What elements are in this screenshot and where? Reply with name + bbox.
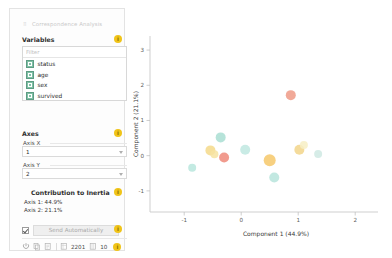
list-item[interactable]: status bbox=[23, 59, 126, 70]
chevron-down-icon bbox=[119, 151, 123, 154]
data-point[interactable] bbox=[264, 154, 276, 166]
send-info-icon[interactable]: i bbox=[114, 225, 122, 233]
data-point[interactable] bbox=[269, 173, 279, 183]
send-button[interactable]: Send Automatically bbox=[33, 225, 119, 236]
filter-input[interactable] bbox=[23, 47, 126, 58]
variable-label: status bbox=[38, 61, 56, 67]
svg-text:3: 3 bbox=[140, 47, 144, 53]
svg-text:0: 0 bbox=[140, 153, 144, 159]
data-point[interactable] bbox=[240, 145, 250, 155]
control-panel: ⠿ Correspondence Analysis Variables i st… bbox=[9, 8, 125, 251]
y-axis-ticks: -10123 bbox=[138, 47, 150, 194]
contribution-info-icon[interactable]: i bbox=[114, 188, 122, 196]
variable-swatch-icon bbox=[26, 92, 34, 100]
chevron-down-icon bbox=[119, 173, 123, 176]
report-icon[interactable] bbox=[44, 242, 52, 251]
list-item[interactable]: age bbox=[23, 70, 126, 81]
data-point[interactable] bbox=[210, 150, 218, 158]
footer-divider bbox=[22, 238, 127, 239]
data-point[interactable] bbox=[300, 141, 308, 149]
contribution-header: Contribution to Inertia bbox=[31, 189, 110, 196]
svg-text:1: 1 bbox=[140, 117, 144, 123]
axis-y-value: 2 bbox=[26, 171, 30, 177]
x-axis-ticks: -1012 bbox=[181, 212, 357, 223]
data-point[interactable] bbox=[314, 150, 322, 158]
list-item[interactable]: survived bbox=[23, 91, 126, 102]
instances-icon bbox=[60, 242, 68, 251]
variables-info-icon[interactable]: i bbox=[114, 35, 122, 43]
svg-text:-1: -1 bbox=[138, 188, 144, 194]
svg-text:-1: -1 bbox=[181, 217, 187, 223]
features-count: 10 bbox=[100, 244, 107, 250]
variables-list[interactable]: status age sex survived bbox=[22, 46, 127, 101]
svg-text:2: 2 bbox=[140, 82, 144, 88]
instances-count: 2201 bbox=[71, 244, 85, 250]
widget-title: Correspondence Analysis bbox=[32, 21, 102, 27]
send-row: Send Automatically bbox=[22, 225, 127, 237]
variable-label: survived bbox=[38, 93, 63, 99]
list-item[interactable]: sex bbox=[23, 80, 126, 91]
features-icon bbox=[89, 242, 97, 251]
axis-x-select[interactable]: 1 bbox=[22, 146, 127, 157]
correspondence-analysis-window: ⠿ Correspondence Analysis Variables i st… bbox=[0, 0, 392, 258]
drag-handle-icon[interactable]: ⠿ bbox=[23, 22, 29, 28]
plot-canvas: -10123 -1012 Component 1 (44.9%) Compone… bbox=[128, 8, 384, 251]
status-info-icon[interactable]: i bbox=[113, 243, 121, 251]
axes-info-icon[interactable]: i bbox=[114, 129, 122, 137]
contribution-axis1: Axis 1: 44.9% bbox=[24, 199, 62, 205]
copy-icon[interactable] bbox=[33, 242, 41, 251]
svg-text:2: 2 bbox=[353, 217, 357, 223]
data-point[interactable] bbox=[216, 132, 226, 142]
scatter-plot[interactable]: -10123 -1012 Component 1 (44.9%) Compone… bbox=[128, 8, 384, 251]
contribution-axis2: Axis 2: 21.1% bbox=[24, 207, 62, 213]
axis-y-rule bbox=[50, 165, 127, 166]
send-automatically-checkbox[interactable] bbox=[22, 227, 29, 234]
y-axis-title: Component 2 (21.1%) bbox=[132, 91, 140, 157]
data-point[interactable] bbox=[286, 90, 296, 100]
variables-header: Variables bbox=[22, 36, 54, 43]
svg-text:0: 0 bbox=[239, 217, 243, 223]
status-divider bbox=[56, 243, 57, 251]
data-point[interactable] bbox=[188, 164, 196, 172]
variable-swatch-icon bbox=[26, 60, 34, 68]
variable-swatch-icon bbox=[26, 71, 34, 79]
power-icon[interactable] bbox=[22, 242, 30, 251]
axis-y-select[interactable]: 2 bbox=[22, 168, 127, 179]
data-points[interactable] bbox=[188, 90, 322, 182]
variable-label: sex bbox=[38, 82, 48, 88]
axes-header: Axes bbox=[22, 130, 39, 137]
x-axis-title: Component 1 (44.9%) bbox=[243, 230, 309, 238]
svg-text:1: 1 bbox=[296, 217, 300, 223]
status-bar: 2201 10 i bbox=[22, 240, 127, 253]
variable-swatch-icon bbox=[26, 81, 34, 89]
axis-x-rule bbox=[50, 143, 127, 144]
variable-label: age bbox=[38, 72, 49, 78]
data-point[interactable] bbox=[219, 152, 229, 162]
axis-x-value: 1 bbox=[26, 149, 30, 155]
